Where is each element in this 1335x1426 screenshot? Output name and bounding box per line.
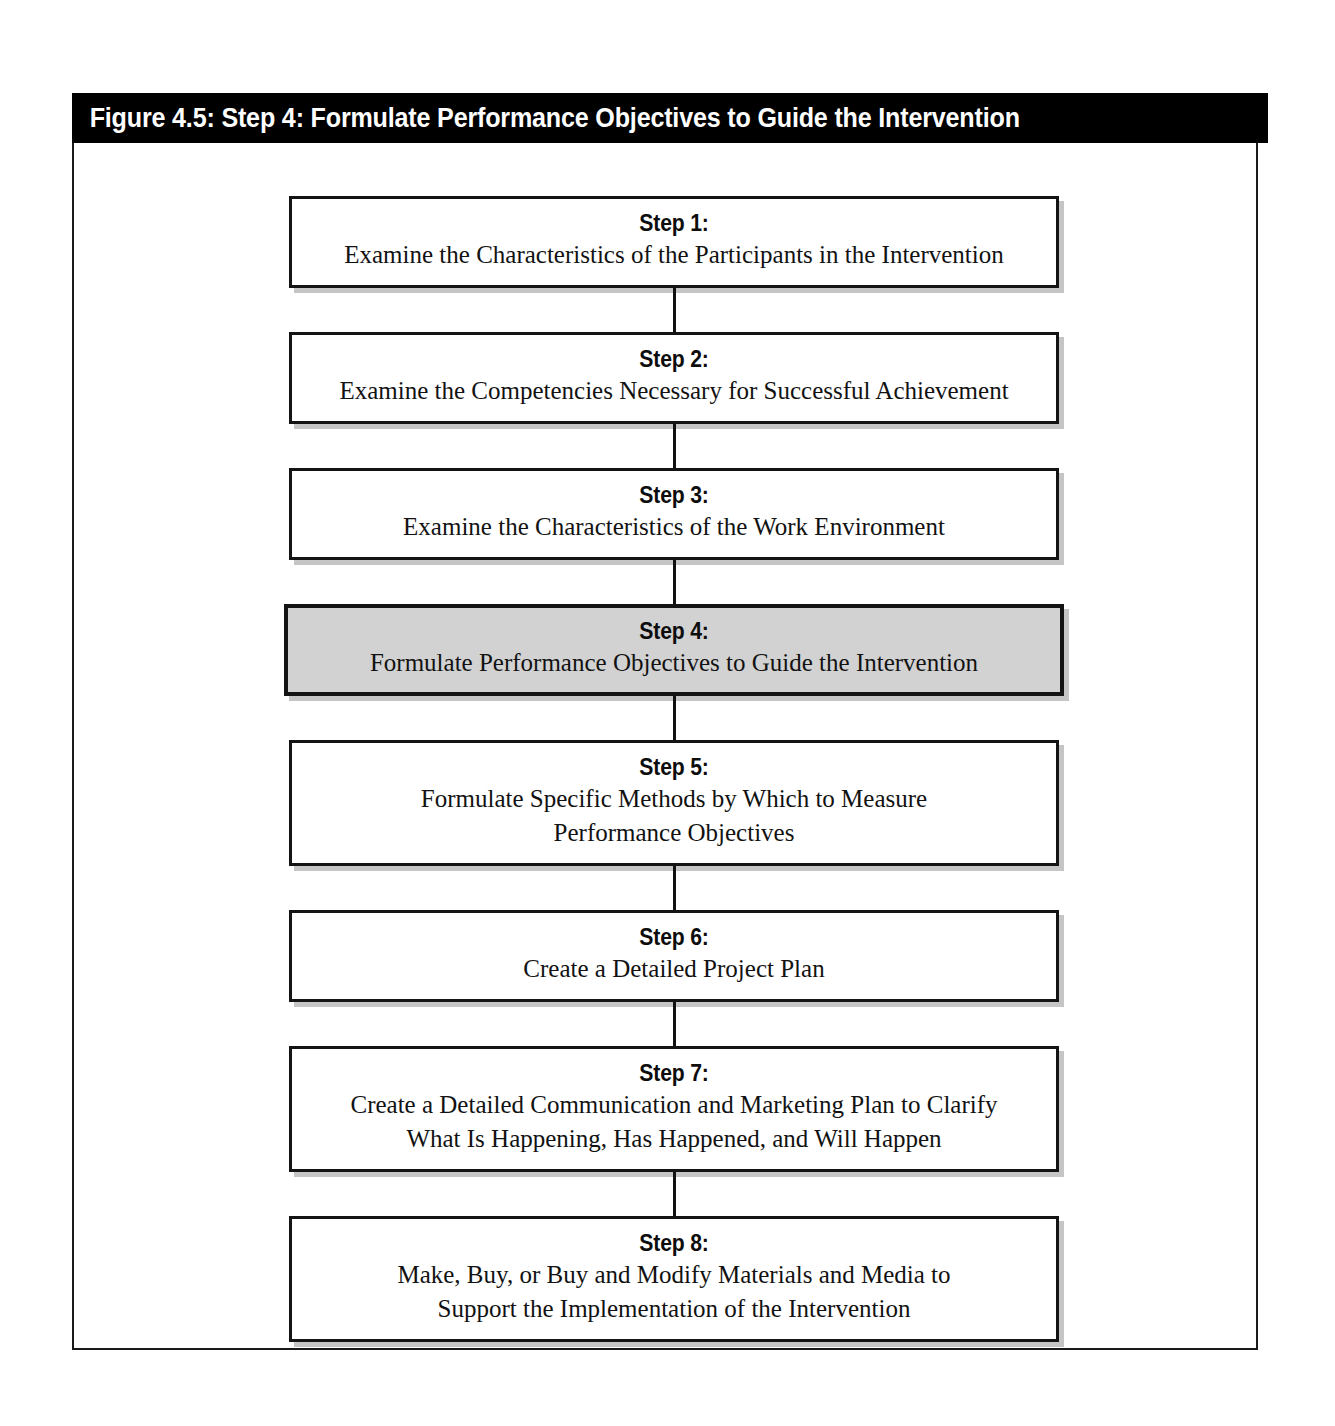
flow-node: Step 4:Formulate Performance Objectives …	[289, 604, 1059, 696]
step-box-7[interactable]: Step 7:Create a Detailed Communication a…	[289, 1046, 1059, 1172]
step-box-8[interactable]: Step 8:Make, Buy, or Buy and Modify Mate…	[289, 1216, 1059, 1342]
flow-node: Step 5:Formulate Specific Methods by Whi…	[289, 740, 1059, 866]
step-box-1[interactable]: Step 1:Examine the Characteristics of th…	[289, 196, 1059, 288]
step-label: Step 8:	[335, 1228, 1012, 1258]
connector-line	[289, 560, 1059, 604]
step-description: Examine the Competencies Necessary for S…	[306, 374, 1042, 408]
figure-title-bar: Figure 4.5: Step 4: Formulate Performanc…	[72, 93, 1268, 143]
flow-node: Step 2:Examine the Competencies Necessar…	[289, 332, 1059, 424]
flow-node: Step 6:Create a Detailed Project Plan	[289, 910, 1059, 1002]
connector-line	[289, 866, 1059, 910]
step-label: Step 1:	[335, 208, 1012, 238]
connector-line	[289, 288, 1059, 332]
connector-line	[289, 696, 1059, 740]
step-label: Step 7:	[335, 1058, 1012, 1088]
step-description: Make, Buy, or Buy and Modify Materials a…	[306, 1258, 1042, 1326]
step-box-6[interactable]: Step 6:Create a Detailed Project Plan	[289, 910, 1059, 1002]
connector-line	[289, 1002, 1059, 1046]
step-description: Create a Detailed Communication and Mark…	[306, 1088, 1042, 1156]
step-label: Step 2:	[335, 344, 1012, 374]
step-description: Examine the Characteristics of the Work …	[306, 510, 1042, 544]
step-description: Examine the Characteristics of the Parti…	[306, 238, 1042, 272]
step-label: Step 3:	[335, 480, 1012, 510]
flow-node: Step 7:Create a Detailed Communication a…	[289, 1046, 1059, 1172]
step-description: Formulate Performance Objectives to Guid…	[302, 646, 1046, 680]
flow-node: Step 8:Make, Buy, or Buy and Modify Mate…	[289, 1216, 1059, 1342]
step-label: Step 6:	[335, 922, 1012, 952]
step-description: Create a Detailed Project Plan	[306, 952, 1042, 986]
step-box-5[interactable]: Step 5:Formulate Specific Methods by Whi…	[289, 740, 1059, 866]
step-description: Formulate Specific Methods by Which to M…	[306, 782, 1042, 850]
step-box-2[interactable]: Step 2:Examine the Competencies Necessar…	[289, 332, 1059, 424]
flow-node: Step 3:Examine the Characteristics of th…	[289, 468, 1059, 560]
step-box-4[interactable]: Step 4:Formulate Performance Objectives …	[284, 604, 1064, 696]
figure-title: Figure 4.5: Step 4: Formulate Performanc…	[72, 103, 1020, 134]
connector-line	[289, 1172, 1059, 1216]
step-label: Step 4:	[332, 616, 1016, 646]
step-box-3[interactable]: Step 3:Examine the Characteristics of th…	[289, 468, 1059, 560]
flow-node: Step 1:Examine the Characteristics of th…	[289, 196, 1059, 288]
step-label: Step 5:	[335, 752, 1012, 782]
connector-line	[289, 424, 1059, 468]
flowchart: Step 1:Examine the Characteristics of th…	[289, 196, 1059, 1342]
